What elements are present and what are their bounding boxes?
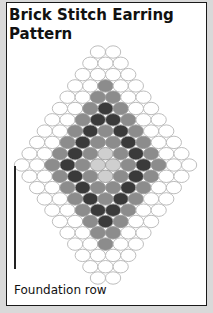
bead-white <box>60 204 75 216</box>
bead-white <box>83 57 98 69</box>
bead-grey <box>83 170 98 182</box>
bead-white <box>52 125 67 137</box>
bead-dark <box>68 148 83 160</box>
bead-white <box>128 215 143 227</box>
bead-white <box>121 91 136 103</box>
bead-white <box>75 249 90 261</box>
bead-white <box>174 148 189 160</box>
bead-dark <box>128 148 143 160</box>
bead-dark <box>98 215 113 227</box>
bead-white <box>121 68 136 80</box>
bead-dark <box>60 159 75 171</box>
bead-grey <box>90 227 105 239</box>
bead-white <box>113 57 128 69</box>
bead-white <box>83 238 98 250</box>
bead-dark <box>106 114 121 126</box>
bead-dark <box>128 170 143 182</box>
bead-white <box>182 159 197 171</box>
bead-white <box>159 170 174 182</box>
bead-white <box>45 136 60 148</box>
bead-dark <box>75 136 90 148</box>
bead-white <box>98 261 113 273</box>
bead-white <box>90 249 105 261</box>
bead-grey <box>60 136 75 148</box>
bead-white <box>166 159 181 171</box>
bead-pattern-diagram <box>0 0 213 313</box>
bead-white <box>68 80 83 92</box>
bead-white <box>136 204 151 216</box>
bead-white <box>52 193 67 205</box>
bead-grey <box>83 148 98 160</box>
bead-white <box>83 261 98 273</box>
bead-grey <box>121 204 136 216</box>
bead-grey <box>136 136 151 148</box>
foundation-row-label: Foundation row <box>14 283 107 297</box>
bead-white <box>14 159 29 171</box>
bead-white <box>60 91 75 103</box>
bead-grey <box>144 148 159 160</box>
bead-white <box>37 193 52 205</box>
bead-grey <box>128 125 143 137</box>
bead-dark <box>83 125 98 137</box>
bead-white <box>75 68 90 80</box>
bead-dark <box>83 193 98 205</box>
bead-grey <box>151 159 166 171</box>
bead-white <box>52 215 67 227</box>
bead-white <box>128 80 143 92</box>
bead-white <box>144 193 159 205</box>
bead-grey <box>52 148 67 160</box>
bead-white <box>151 204 166 216</box>
bead-grey <box>113 102 128 114</box>
bead-white <box>90 46 105 58</box>
bead-grey <box>106 136 121 148</box>
bead-white <box>68 215 83 227</box>
bead-grey <box>98 80 113 92</box>
bead-grey <box>52 170 67 182</box>
bead-grey <box>121 159 136 171</box>
bead-grey <box>113 170 128 182</box>
bead-white <box>151 181 166 193</box>
bead-white <box>45 181 60 193</box>
bead-grey <box>106 227 121 239</box>
bead-grey <box>136 181 151 193</box>
bead-white <box>68 238 83 250</box>
bead-white <box>159 148 174 160</box>
bead-white <box>136 227 151 239</box>
foundation-row-marker-line <box>14 166 16 269</box>
bead-white <box>98 57 113 69</box>
bead-grey <box>60 181 75 193</box>
bead-white <box>151 114 166 126</box>
bead-white <box>136 91 151 103</box>
bead-grey <box>83 215 98 227</box>
bead-grey <box>121 114 136 126</box>
bead-white <box>159 125 174 137</box>
bead-white <box>144 102 159 114</box>
bead-grey <box>90 181 105 193</box>
bead-white <box>113 238 128 250</box>
bead-dark <box>121 181 136 193</box>
bead-white <box>166 136 181 148</box>
bead-white <box>106 272 121 284</box>
bead-white <box>45 114 60 126</box>
bead-dark <box>136 159 151 171</box>
bead-grey <box>128 193 143 205</box>
bead-light <box>98 170 113 182</box>
bead-dark <box>98 102 113 114</box>
bead-white <box>128 238 143 250</box>
bead-dark <box>121 136 136 148</box>
bead-grey <box>98 193 113 205</box>
bead-white <box>75 227 90 239</box>
bead-white <box>22 170 37 182</box>
bead-white <box>45 204 60 216</box>
bead-grey <box>113 215 128 227</box>
bead-white <box>106 249 121 261</box>
bead-grey <box>90 136 105 148</box>
bead-grey <box>106 91 121 103</box>
bead-grey <box>83 102 98 114</box>
bead-grey <box>68 193 83 205</box>
bead-white <box>37 170 52 182</box>
bead-grey <box>98 125 113 137</box>
bead-grey <box>75 204 90 216</box>
bead-white <box>37 125 52 137</box>
bead-dark <box>90 114 105 126</box>
